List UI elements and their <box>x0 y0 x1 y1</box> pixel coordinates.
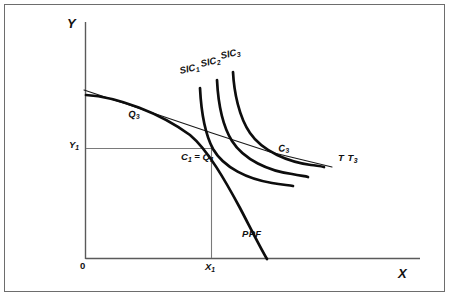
c1-q1-label: C1 = Q1 <box>181 152 214 162</box>
ppf-label: PPF <box>242 229 261 239</box>
tt3-label-base: T T <box>338 152 354 163</box>
q1-label-base: Q <box>203 151 210 162</box>
q3-label-sub: 3 <box>136 112 141 119</box>
tt3-label-sub: 3 <box>354 157 358 164</box>
ppf-curve <box>86 95 267 259</box>
sic2-label-sub: 2 <box>216 58 221 66</box>
economics-figure: Y X 0 Y1 X1 SIC1 SIC2 SIC3 Q3 C3 T T3 PP… <box>0 0 451 297</box>
y-axis-title: Y <box>67 17 76 30</box>
x1-tick-sub: 1 <box>211 266 215 273</box>
origin-label: 0 <box>80 261 85 271</box>
tt3-label: T T3 <box>338 153 358 163</box>
x-axis-title: X <box>398 267 407 280</box>
sic3-label-sub: 3 <box>236 50 241 58</box>
y1-tick-label: Y1 <box>69 140 79 150</box>
y1-tick-sub: 1 <box>75 144 79 151</box>
x1-tick-label: X1 <box>205 262 215 272</box>
c3-label-sub: 3 <box>285 147 290 154</box>
plot-canvas <box>0 0 451 297</box>
equals-sign: = <box>192 151 203 162</box>
q3-label: Q3 <box>128 109 140 120</box>
sic1-label-sub: 1 <box>195 65 200 73</box>
c3-label: C3 <box>278 143 290 154</box>
q1-label-sub: 1 <box>210 156 214 163</box>
c1-label-base: C <box>181 151 188 162</box>
c1-label-sub: 1 <box>188 156 192 163</box>
